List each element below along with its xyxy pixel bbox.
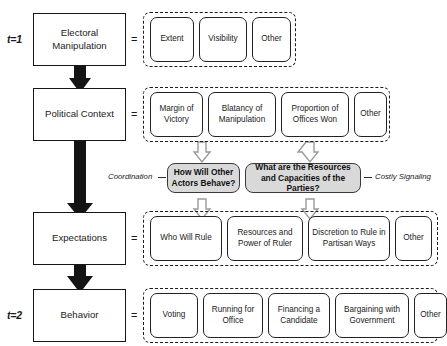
component-box: Margin of Victory <box>150 92 203 137</box>
equals-text-row4: = <box>131 309 137 321</box>
component-box: Proportion of Offices Won <box>281 92 349 137</box>
component-box: Other <box>354 92 387 137</box>
component-box: Other <box>414 293 447 338</box>
component-label: Visibility <box>208 34 237 45</box>
mechanism-question-costly-signaling: What are the Resources and Capacities of… <box>245 163 361 193</box>
component-box: Other <box>252 17 291 62</box>
concept-box-expectations: Expectations <box>33 212 126 265</box>
time-label-t2-text: t=2 <box>7 309 22 321</box>
component-label: Margin of Victory <box>154 104 199 125</box>
concept-label-electoral-manipulation: Electoral Manipulation <box>38 27 121 53</box>
arrow-context-to-expectations <box>67 141 93 219</box>
mechanism-question-costly-signaling-text: What are the Resources and Capacities of… <box>249 162 357 195</box>
mechanism-label-costly-signaling-text: Costly Signaling <box>375 172 431 181</box>
mechanism-connector-costly-signaling <box>364 177 372 178</box>
component-label: Financing a Candidate <box>272 305 326 326</box>
equals-text-row2: = <box>131 108 137 120</box>
component-group-expectations: Who Will Rule Resources and Power of Rul… <box>143 211 438 266</box>
mechanism-question-coordination-text: How Will Other Actors Behave? <box>171 167 236 189</box>
concept-box-behavior: Behavior <box>33 289 126 342</box>
concept-label-political-context: Political Context <box>45 108 114 121</box>
mechanism-label-coordination: Coordination <box>108 172 152 181</box>
component-label: Resources and Power of Ruler <box>231 228 299 249</box>
component-label: Proportion of Offices Won <box>285 104 345 125</box>
mechanism-label-costly-signaling: Costly Signaling <box>375 172 431 181</box>
component-label: Blatancy of Manipulation <box>212 104 272 125</box>
component-label: Other <box>403 233 423 244</box>
arrow-context-to-coordination <box>194 142 210 162</box>
component-box: Financing a Candidate <box>268 293 330 338</box>
mechanism-label-coordination-text: Coordination <box>108 172 152 181</box>
time-label-t2: t=2 <box>7 309 22 321</box>
equals-sign-row2: = <box>131 109 137 120</box>
component-label: Other <box>420 310 440 321</box>
equals-sign-row3: = <box>131 233 137 244</box>
mechanism-question-coordination: How Will Other Actors Behave? <box>167 163 240 193</box>
equals-sign-row4: = <box>131 310 137 321</box>
component-label: Voting <box>163 310 186 321</box>
component-group-electoral-manipulation: Extent Visibility Other <box>143 12 296 67</box>
component-group-political-context: Margin of Victory Blatancy of Manipulati… <box>143 87 390 142</box>
component-box: Voting <box>150 293 198 338</box>
time-label-t1-text: t=1 <box>7 33 22 45</box>
component-box: Discretion to Rule in Partisan Ways <box>308 216 390 261</box>
causal-framework-diagram: t=1 Electoral Manipulation = Extent Visi… <box>0 0 447 346</box>
concept-box-political-context: Political Context <box>33 88 126 141</box>
equals-text-row1: = <box>131 33 137 45</box>
component-label: Who Will Rule <box>160 233 211 244</box>
concept-label-behavior: Behavior <box>61 309 99 322</box>
concept-label-expectations: Expectations <box>52 232 107 245</box>
equals-sign-row1: = <box>131 34 137 45</box>
component-box: Blatancy of Manipulation <box>208 92 276 137</box>
component-box: Extent <box>150 17 194 62</box>
arrow-context-to-signaling <box>298 142 318 162</box>
component-box: Visibility <box>199 17 247 62</box>
component-box: Who Will Rule <box>150 216 222 261</box>
component-label: Other <box>261 34 281 45</box>
component-label: Running for Office <box>207 305 259 326</box>
equals-text-row3: = <box>131 232 137 244</box>
component-box: Other <box>395 216 432 261</box>
component-label: Extent <box>160 34 183 45</box>
component-label: Bargaining with Government <box>339 305 405 326</box>
mechanism-connector-coordination <box>158 177 166 178</box>
component-box: Resources and Power of Ruler <box>227 216 303 261</box>
component-box: Bargaining with Government <box>335 293 409 338</box>
concept-box-electoral-manipulation: Electoral Manipulation <box>33 13 126 66</box>
component-label: Discretion to Rule in Partisan Ways <box>312 228 386 249</box>
component-label: Other <box>360 109 380 120</box>
component-group-behavior: Voting Running for Office Financing a Ca… <box>143 288 438 343</box>
component-box: Running for Office <box>203 293 263 338</box>
time-label-t1: t=1 <box>7 33 22 45</box>
